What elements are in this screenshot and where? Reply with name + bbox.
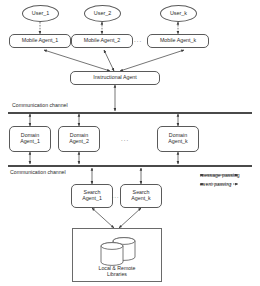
search-agent-label-1: Search Agent_1 bbox=[82, 190, 102, 201]
libraries-container[interactable]: Local & Remote Libraries bbox=[72, 228, 162, 282]
user-label-2: User_2 bbox=[94, 11, 111, 17]
domain-agent-ellipsis: ... bbox=[121, 136, 129, 142]
mobile-agent-label-2: Mobile Agent_2 bbox=[84, 38, 121, 44]
communication-channel-label-upper: Communication channel bbox=[12, 102, 68, 108]
mobile-agent-node-1[interactable]: Mobile Agent_1 bbox=[9, 34, 71, 48]
legend-label-message-passing: message passing bbox=[200, 172, 240, 178]
user-label-1: User_1 bbox=[32, 11, 49, 17]
search-agent-node-k[interactable]: Search Agent_k bbox=[120, 184, 162, 208]
libraries-label: Local & Remote Libraries bbox=[73, 265, 161, 278]
user-node-2[interactable]: User_2 bbox=[84, 5, 121, 22]
database-icon bbox=[73, 232, 161, 268]
search-agent-node-1[interactable]: Search Agent_1 bbox=[71, 184, 113, 208]
communication-channel-bar-upper bbox=[8, 112, 252, 114]
search-agent-label-k: Search Agent_k bbox=[131, 190, 150, 201]
domain-agent-node-1[interactable]: Domain Agent_1 bbox=[9, 126, 51, 152]
domain-agent-label-2: Domain Agent_2 bbox=[69, 133, 89, 144]
domain-agent-node-k[interactable]: Domain Agent_k bbox=[157, 126, 199, 152]
instructional-agent-label: Instructional Agent bbox=[93, 75, 137, 81]
communication-channel-label-lower: Communication channel bbox=[10, 169, 66, 175]
communication-channel-bar-lower bbox=[8, 165, 252, 167]
mobile-agent-ellipsis: ... bbox=[134, 37, 142, 43]
domain-agent-node-2[interactable]: Domain Agent_2 bbox=[58, 126, 100, 152]
mobile-agent-node-2[interactable]: Mobile Agent_2 bbox=[71, 34, 133, 48]
mobile-agent-label-1: Mobile Agent_1 bbox=[22, 38, 59, 44]
mobile-agent-node-k[interactable]: Mobile Agent_k bbox=[147, 34, 209, 48]
mobile-agent-label-k: Mobile Agent_k bbox=[160, 38, 196, 44]
architecture-diagram: User_1 User_2 User_k Mobile Agent_1 Mobi… bbox=[0, 0, 260, 286]
domain-agent-label-1: Domain Agent_1 bbox=[20, 133, 40, 144]
legend-label-event-passing: event passing bbox=[200, 181, 231, 187]
user-node-1[interactable]: User_1 bbox=[22, 5, 59, 22]
search-agent-ellipsis: ... bbox=[112, 193, 119, 199]
user-node-k[interactable]: User_k bbox=[160, 5, 197, 22]
instructional-agent-node[interactable]: Instructional Agent bbox=[70, 71, 160, 85]
domain-agent-label-k: Domain Agent_k bbox=[168, 133, 187, 144]
user-label-k: User_k bbox=[170, 11, 187, 17]
